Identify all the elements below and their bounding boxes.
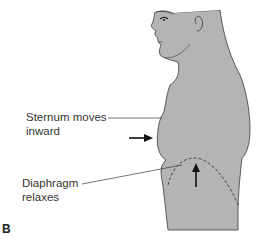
- diaphragm-label: Diaphragm relaxes: [22, 176, 78, 204]
- sternum-label-line1: Sternum moves: [26, 110, 107, 124]
- panel-label: B: [2, 222, 11, 236]
- diaphragm-label-line1: Diaphragm: [22, 176, 78, 190]
- sternum-label-line2: inward: [26, 124, 107, 138]
- diaphragm-label-line2: relaxes: [22, 190, 78, 204]
- right-arrow-icon: [144, 134, 153, 142]
- torso-silhouette: [151, 10, 250, 230]
- sternum-label: Sternum moves inward: [26, 110, 107, 138]
